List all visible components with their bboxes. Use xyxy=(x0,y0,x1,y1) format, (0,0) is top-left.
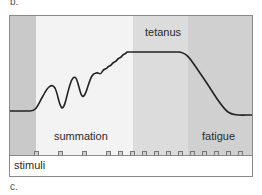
tetanus-label: tetanus xyxy=(145,26,181,38)
summation-label: summation xyxy=(54,130,108,142)
chart-area: tetanus summation fatigue xyxy=(10,16,252,156)
panel-label-c: c. xyxy=(10,181,18,192)
panel-label-b: b. xyxy=(10,0,18,7)
muscle-contraction-diagram: tetanus summation fatigue stimuli xyxy=(9,15,253,177)
stimuli-label: stimuli xyxy=(14,159,45,171)
fatigue-label: fatigue xyxy=(202,130,235,142)
stimuli-row: stimuli xyxy=(10,156,252,176)
